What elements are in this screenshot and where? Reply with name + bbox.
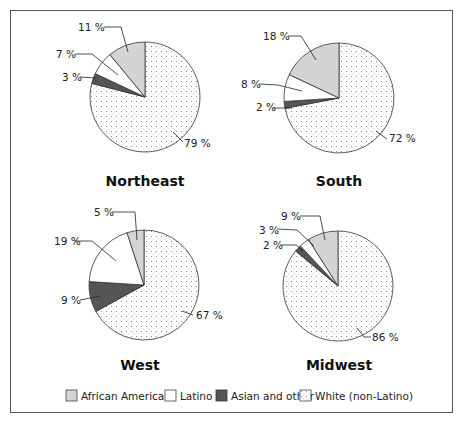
midwest-title: Midwest xyxy=(306,357,373,373)
west-label-white: 67 % xyxy=(196,309,223,321)
northeast-label-african: 11 % xyxy=(78,21,105,33)
legend-label-african-american: African American xyxy=(81,390,171,402)
west-label-asian: 9 % xyxy=(61,294,81,306)
pie-northeast xyxy=(90,42,200,152)
midwest-label-white: 86 % xyxy=(372,331,399,343)
legend: African American Latino Asian and other … xyxy=(66,390,413,402)
midwest-label-african: 9 % xyxy=(281,210,301,222)
west-label-latino: 19 % xyxy=(54,235,81,247)
pie-west xyxy=(89,230,199,340)
south-label-latino: 8 % xyxy=(241,78,261,90)
legend-swatch-latino xyxy=(165,390,176,401)
pie-charts-figure: 11 % 7 % 3 % 79 % Northeast 18 % 8 % 2 %… xyxy=(0,0,464,425)
legend-label-latino: Latino xyxy=(180,390,212,402)
legend-label-white: White (non-Latino) xyxy=(315,390,413,402)
northeast-title: Northeast xyxy=(106,173,185,189)
pie-south xyxy=(284,43,394,153)
legend-swatch-african-american xyxy=(66,390,77,401)
legend-swatch-white xyxy=(300,390,311,401)
south-label-asian: 2 % xyxy=(256,101,276,113)
legend-swatch-asian-other xyxy=(216,390,227,401)
south-label-african: 18 % xyxy=(263,30,290,42)
northeast-label-white: 79 % xyxy=(184,137,211,149)
midwest-label-asian: 2 % xyxy=(263,239,283,251)
south-label-white: 72 % xyxy=(389,132,416,144)
northeast-label-asian: 3 % xyxy=(62,71,82,83)
northeast-label-latino: 7 % xyxy=(56,48,76,60)
south-title: South xyxy=(316,173,362,189)
west-title: West xyxy=(120,357,160,373)
midwest-label-latino: 3 % xyxy=(259,224,279,236)
west-label-african: 5 % xyxy=(94,206,114,218)
